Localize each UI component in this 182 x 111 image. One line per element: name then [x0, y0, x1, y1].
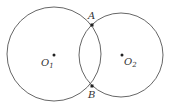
center-o1-label: O1 — [41, 57, 54, 70]
point-a-label: A — [87, 10, 95, 21]
two-circles-diagram: A B O1 O2 — [0, 0, 182, 111]
point-a-marker — [91, 24, 94, 27]
center-o2-label: O2 — [124, 56, 137, 69]
point-b-marker — [91, 85, 94, 88]
center-o1-dot — [53, 54, 56, 57]
point-b-label: B — [87, 89, 95, 100]
